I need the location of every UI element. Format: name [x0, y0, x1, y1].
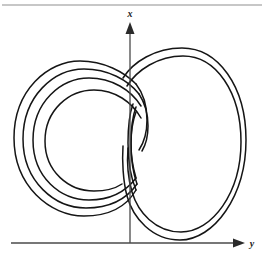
right-lobe-loop-2	[127, 56, 241, 232]
vertical-axis-label: x	[127, 8, 133, 19]
crossing-strand-1	[136, 84, 147, 150]
left-lobe-loop-4	[45, 90, 141, 191]
horizontal-axis-label: y	[249, 238, 255, 249]
phase-portrait-canvas: x y	[0, 0, 264, 260]
vertical-axis-arrowhead	[126, 22, 135, 34]
horizontal-axis-arrowhead	[233, 239, 245, 248]
phase-portrait-figure: x y	[0, 0, 264, 260]
left-lobe-loop-2	[23, 69, 139, 208]
left-lobe-spiral-group	[14, 61, 141, 216]
crossing-strands-group	[128, 84, 148, 190]
right-lobe-orbit-group	[123, 48, 246, 240]
